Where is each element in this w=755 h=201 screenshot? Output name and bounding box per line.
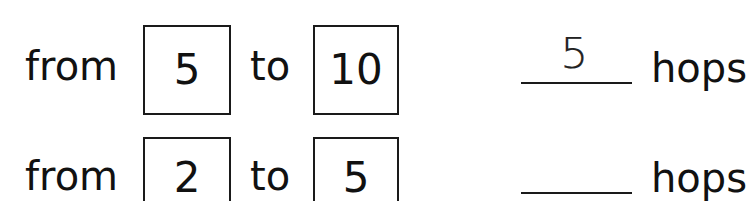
hops-label: hops [651,158,747,198]
hops-worksheet: from 5 to 10 5 hops from 2 to 5 hops [0,0,755,201]
to-value: 5 [343,157,370,199]
from-label: from [25,156,118,196]
to-label: to [250,156,290,196]
to-value-box: 5 [313,137,399,201]
problem-row-2: from 2 to 5 hops [0,0,755,201]
from-value: 2 [174,157,201,199]
answer-blank[interactable] [521,192,632,194]
from-value-box: 2 [143,137,231,201]
